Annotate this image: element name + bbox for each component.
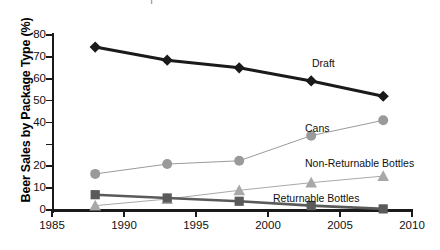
data-point [378, 115, 388, 125]
data-point [90, 169, 100, 179]
data-point [378, 91, 389, 102]
series-label-draft: Draft [312, 57, 335, 69]
series-label-cans: Cans [305, 122, 330, 134]
data-point [234, 62, 245, 73]
data-point [163, 193, 172, 202]
series-plot-area [0, 0, 440, 250]
data-point [234, 156, 244, 166]
data-point [235, 197, 244, 206]
series-draft [90, 41, 389, 101]
series-label-returnable-bottles: Returnable Bottles [273, 192, 359, 204]
data-point [379, 204, 388, 213]
data-point [162, 55, 173, 66]
series-label-non-returnable-bottles: Non-Returnable Bottles [305, 157, 414, 169]
chart-container: Ι Beer Sales by Package Type (%) 0102040… [0, 0, 440, 250]
data-point [306, 75, 317, 86]
data-point [91, 190, 100, 199]
data-point [162, 159, 172, 169]
data-point [90, 41, 101, 52]
data-point [377, 170, 389, 181]
series-cans [90, 115, 388, 179]
